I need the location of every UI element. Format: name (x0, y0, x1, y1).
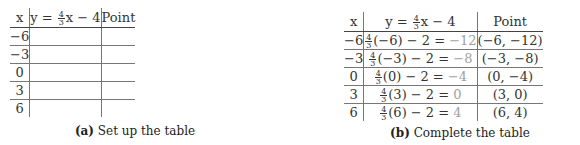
fraction: 43 (380, 88, 387, 103)
eq-lhs: y (385, 14, 392, 29)
expr-result: 0 (453, 87, 461, 102)
cell-y-expr (30, 28, 101, 46)
header-equation: y = 43x − 4 (364, 12, 477, 32)
header-equation: y = 43x − 4 (30, 8, 101, 28)
cell-y-expr: 43(−6) − 2 = −12 (364, 32, 477, 50)
header-x: x (344, 12, 364, 32)
expr-result: −4 (448, 69, 467, 84)
table-row: 6 (10, 100, 135, 118)
table-a: x y = 43x − 4 Point −6 −3 0 3 6 (10, 8, 135, 117)
header-point: Point (477, 12, 543, 32)
expr-result: 4 (453, 105, 461, 120)
caption-a: (a) Set up the table (40, 124, 230, 138)
table-row: 0 (10, 64, 135, 82)
table-b: x y = 43x − 4 Point −6 43(−6) − 2 = −12 … (344, 12, 543, 121)
frac-den: 3 (413, 23, 420, 30)
header-point: Point (101, 8, 135, 28)
caption-b: (b) Complete the table (370, 126, 550, 140)
cell-y-expr: 43(6) − 2 = 4 (364, 104, 477, 122)
fraction: 43 (365, 34, 372, 49)
fraction: 43 (369, 52, 376, 67)
fraction: 43 (58, 11, 65, 26)
table-row: 6 43(6) − 2 = 4 (6, 4) (344, 104, 543, 122)
cell-point: (−6, −12) (477, 32, 543, 50)
eq-rest: x − 4 (421, 14, 456, 29)
table-row: −6 (10, 28, 135, 46)
cell-point (101, 28, 135, 46)
expr-result: −12 (449, 33, 476, 48)
cell-x: −3 (344, 50, 364, 68)
table-b-header-row: x y = 43x − 4 Point (344, 12, 543, 32)
cell-point (101, 100, 135, 118)
cell-point: (6, 4) (477, 104, 543, 122)
table-row: 0 43(0) − 2 = −4 (0, −4) (344, 68, 543, 86)
expr-text: (−6) − 2 = (373, 33, 449, 48)
fraction: 43 (380, 106, 387, 121)
cell-point: (−3, −8) (477, 50, 543, 68)
caption-a-text: Set up the table (94, 124, 195, 138)
frac-den: 3 (375, 78, 382, 85)
caption-b-text: Complete the table (410, 126, 530, 140)
cell-y-expr (30, 64, 101, 82)
cell-x: 3 (10, 82, 30, 100)
table-row: 3 (10, 82, 135, 100)
cell-x: 0 (10, 64, 30, 82)
caption-a-label: (a) (75, 124, 94, 138)
cell-y-expr: 43(−3) − 2 = −8 (364, 50, 477, 68)
cell-point (101, 82, 135, 100)
expr-text: (3) − 2 = (388, 87, 453, 102)
frac-den: 3 (365, 42, 372, 49)
frac-den: 3 (58, 19, 65, 26)
frac-den: 3 (369, 60, 376, 67)
cell-x: −6 (10, 28, 30, 46)
table-row: −3 43(−3) − 2 = −8 (−3, −8) (344, 50, 543, 68)
cell-x: −3 (10, 46, 30, 64)
cell-y-expr: 43(3) − 2 = 0 (364, 86, 477, 104)
cell-x: 3 (344, 86, 364, 104)
table-row: −3 (10, 46, 135, 64)
expr-result: −8 (453, 51, 472, 66)
table-a-header-row: x y = 43x − 4 Point (10, 8, 135, 28)
cell-point: (3, 0) (477, 86, 543, 104)
cell-x: −6 (344, 32, 364, 50)
caption-b-label: (b) (390, 126, 410, 140)
eq-rest: x − 4 (66, 10, 101, 25)
fraction: 43 (413, 15, 420, 30)
cell-y-expr (30, 46, 101, 64)
expr-text: (6) − 2 = (388, 105, 453, 120)
frac-den: 3 (380, 114, 387, 121)
cell-x: 6 (344, 104, 364, 122)
cell-x: 0 (344, 68, 364, 86)
cell-y-expr: 43(0) − 2 = −4 (364, 68, 477, 86)
table-row: 3 43(3) − 2 = 0 (3, 0) (344, 86, 543, 104)
cell-y-expr (30, 100, 101, 118)
cell-point (101, 64, 135, 82)
cell-point (101, 46, 135, 64)
header-x: x (10, 8, 30, 28)
cell-point: (0, −4) (477, 68, 543, 86)
cell-x: 6 (10, 100, 30, 118)
table-row: −6 43(−6) − 2 = −12 (−6, −12) (344, 32, 543, 50)
eq-lhs: y (30, 10, 37, 25)
cell-y-expr (30, 82, 101, 100)
expr-text: (0) − 2 = (383, 69, 448, 84)
fraction: 43 (375, 70, 382, 85)
expr-text: (−3) − 2 = (377, 51, 453, 66)
frac-den: 3 (380, 96, 387, 103)
